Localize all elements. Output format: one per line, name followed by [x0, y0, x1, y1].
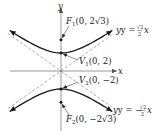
point-v2: [60, 88, 63, 91]
point-f1: [60, 38, 63, 41]
pointer-f1: [62, 26, 69, 38]
point-f2: [60, 101, 63, 104]
asymptote-label-upper: yy = √2 2 x: [115, 24, 149, 37]
label-f1: F1(0, 2√3): [65, 16, 109, 27]
upper-branch-right: [61, 31, 112, 53]
svg-text:yy = −: yy = −: [112, 105, 142, 115]
svg-text:x: x: [147, 105, 152, 115]
lower-branch-left: [10, 89, 61, 111]
x-axis-label: x: [118, 66, 123, 76]
label-v1: V1(0, 2): [79, 56, 112, 67]
asymptote-label-lower: yy = − √2 2 x: [112, 104, 152, 117]
svg-text:x: x: [144, 25, 149, 35]
svg-text:√2: √2: [137, 24, 143, 30]
point-v1: [60, 52, 63, 55]
lower-branch-right: [61, 89, 112, 111]
y-axis-label: y: [57, 1, 63, 11]
origin-point: [60, 70, 62, 72]
hyperbola-diagram: x y F1(0, 2√3) V1(0, 2) V2(0, −2) F2(0, …: [0, 0, 161, 135]
svg-text:2: 2: [141, 111, 144, 117]
label-f2: F2(0, −2√3): [65, 114, 116, 125]
svg-text:√2: √2: [140, 104, 146, 110]
svg-text:yy =: yy =: [115, 25, 135, 35]
upper-branch-left: [10, 31, 61, 53]
pointer-v1: [63, 54, 78, 60]
pointer-v2: [63, 82, 78, 88]
label-v2: V2(0, −2): [79, 75, 119, 86]
svg-text:2: 2: [138, 31, 141, 37]
